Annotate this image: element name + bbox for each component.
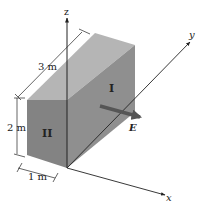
face-I-label: I (109, 82, 114, 95)
box-field-diagram: z y x 3 m 2 m 1 m I II E (0, 0, 202, 210)
x-axis (67, 168, 165, 195)
e-field-label: E (128, 122, 137, 133)
y-axis-label: y (188, 29, 195, 40)
z-axis-label: z (64, 7, 69, 17)
face-II-label: II (42, 127, 52, 140)
length-dimension-label: 3 m (38, 61, 58, 72)
width-dimension-label: 1 m (28, 171, 48, 182)
x-axis-label: x (166, 192, 172, 203)
height-dimension-label: 2 m (7, 122, 27, 133)
